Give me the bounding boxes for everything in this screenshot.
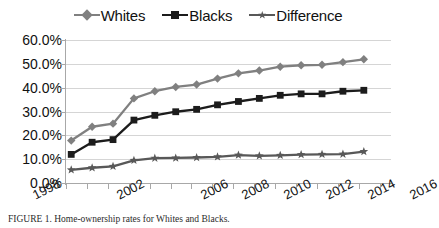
square-marker-icon — [360, 87, 367, 94]
series-line — [71, 59, 364, 140]
diamond-marker-icon — [192, 80, 200, 88]
square-marker-icon — [193, 106, 200, 113]
star-marker-icon — [255, 151, 264, 159]
square-marker-icon — [256, 95, 263, 102]
square-marker-icon — [131, 117, 138, 124]
figure-caption: FIGURE 1. Home-ownership rates for White… — [8, 214, 412, 224]
square-marker-icon — [298, 90, 305, 97]
square-marker-icon — [110, 136, 117, 143]
diamond-marker-icon — [172, 83, 180, 91]
star-marker-icon — [339, 150, 348, 158]
diamond-marker-icon — [213, 74, 221, 82]
diamond-marker-icon — [297, 61, 305, 69]
square-marker-icon — [319, 90, 326, 97]
series-difference — [67, 147, 368, 174]
star-marker-icon — [192, 153, 201, 161]
diamond-marker-icon — [276, 62, 284, 70]
diamond-marker-icon — [255, 66, 263, 74]
star-marker-icon — [318, 150, 327, 158]
star-marker-icon — [297, 150, 306, 158]
star-marker-icon — [130, 156, 139, 164]
star-marker-icon — [213, 152, 222, 160]
star-marker-icon — [234, 151, 243, 159]
square-marker-icon — [235, 98, 242, 105]
square-marker-icon — [172, 108, 179, 115]
diamond-marker-icon — [360, 55, 368, 63]
star-marker-icon — [359, 147, 368, 155]
diamond-marker-icon — [318, 61, 326, 69]
star-marker-icon — [67, 165, 76, 173]
diamond-marker-icon — [339, 58, 347, 66]
star-marker-icon — [276, 151, 285, 159]
star-marker-icon — [88, 163, 97, 171]
star-marker-icon — [150, 154, 159, 162]
diamond-marker-icon — [151, 87, 159, 95]
series-whites — [67, 55, 368, 145]
square-marker-icon — [214, 101, 221, 108]
star-marker-icon — [109, 162, 118, 170]
square-marker-icon — [277, 92, 284, 99]
star-marker-icon — [171, 153, 180, 161]
square-marker-icon — [340, 88, 347, 95]
square-marker-icon — [89, 139, 96, 146]
diamond-marker-icon — [234, 69, 242, 77]
square-marker-icon — [151, 112, 158, 119]
square-marker-icon — [68, 151, 75, 158]
